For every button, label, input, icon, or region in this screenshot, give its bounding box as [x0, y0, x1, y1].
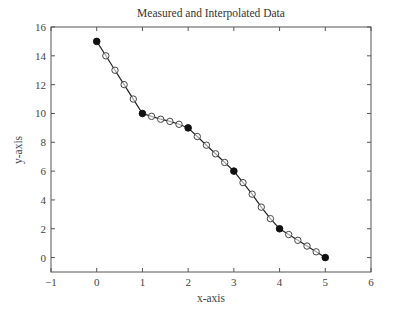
- y-tick-label: 12: [35, 79, 46, 91]
- x-tick-label: 4: [277, 276, 283, 288]
- x-tick-label: 2: [185, 276, 191, 288]
- y-tick-label: 2: [41, 223, 47, 235]
- filled-circle-marker: [139, 110, 146, 117]
- filled-circle-marker: [93, 38, 100, 45]
- open-circle-marker: [295, 237, 301, 243]
- open-circle-marker: [121, 81, 127, 87]
- x-tick-label: 6: [368, 276, 374, 288]
- x-tick-label: 0: [94, 276, 100, 288]
- x-tick-label: −1: [45, 276, 57, 288]
- open-circle-marker: [103, 53, 109, 59]
- x-axis-label: x-axis: [197, 292, 226, 304]
- y-tick-label: 0: [41, 252, 47, 264]
- open-circle-marker: [112, 67, 118, 73]
- interpolated-polyline: [97, 41, 326, 257]
- axis-ticks: −101234560246810121416: [35, 21, 374, 288]
- filled-circle-marker: [276, 225, 283, 232]
- open-circle-marker: [167, 118, 173, 124]
- open-circle-marker: [286, 231, 292, 237]
- open-circle-marker: [158, 116, 164, 122]
- y-tick-label: 6: [41, 165, 47, 177]
- interpolated-line: [97, 41, 326, 257]
- y-tick-label: 8: [41, 136, 47, 148]
- x-tick-label: 1: [140, 276, 146, 288]
- y-axis-label: y-axis: [12, 135, 25, 164]
- open-circle-marker: [304, 243, 310, 249]
- open-circle-marker: [194, 133, 200, 139]
- open-circle-marker: [258, 204, 264, 210]
- open-circle-marker: [249, 191, 255, 197]
- y-tick-label: 4: [41, 194, 47, 206]
- open-circle-marker: [148, 113, 154, 119]
- y-tick-label: 10: [35, 107, 47, 119]
- y-tick-label: 14: [35, 50, 47, 62]
- open-circle-marker: [222, 159, 228, 165]
- chart: Measured and Interpolated Data −10123456…: [0, 0, 393, 312]
- y-tick-label: 16: [35, 21, 47, 33]
- x-tick-label: 5: [323, 276, 329, 288]
- open-circle-marker: [212, 151, 218, 157]
- open-circle-marker: [313, 249, 319, 255]
- open-circle-marker: [130, 96, 136, 102]
- open-circle-marker: [267, 215, 273, 221]
- open-circle-marker: [203, 142, 209, 148]
- open-circle-marker: [240, 179, 246, 185]
- x-tick-label: 3: [231, 276, 237, 288]
- filled-circle-marker: [322, 254, 329, 261]
- filled-circle-marker: [231, 168, 238, 175]
- chart-title: Measured and Interpolated Data: [137, 7, 285, 20]
- filled-circle-marker: [185, 125, 192, 132]
- open-circle-marker: [176, 121, 182, 127]
- interpolated-markers: [103, 53, 320, 255]
